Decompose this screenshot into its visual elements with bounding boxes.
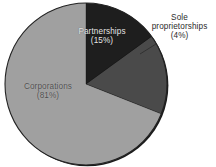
pie-label-corporations-value: (81%) [6,91,90,100]
pie-chart-figure: Partnerships (15%) Corporations (81%) So… [0,0,216,167]
pie-label-corporations-name: Corporations [6,82,90,91]
pie-label-sole-proprietorships: Sole proprietorships (4%) [143,13,216,41]
pie-label-partnerships: Partnerships (15%) [60,27,144,45]
pie-label-sole-proprietorships-name-line2: proprietorships [143,22,216,31]
pie-label-partnerships-value: (15%) [60,36,144,45]
pie-label-sole-proprietorships-name-line1: Sole [143,13,216,22]
pie-label-sole-proprietorships-value: (4%) [143,31,216,40]
pie-label-corporations: Corporations (81%) [6,82,90,100]
pie-label-partnerships-name: Partnerships [60,27,144,36]
